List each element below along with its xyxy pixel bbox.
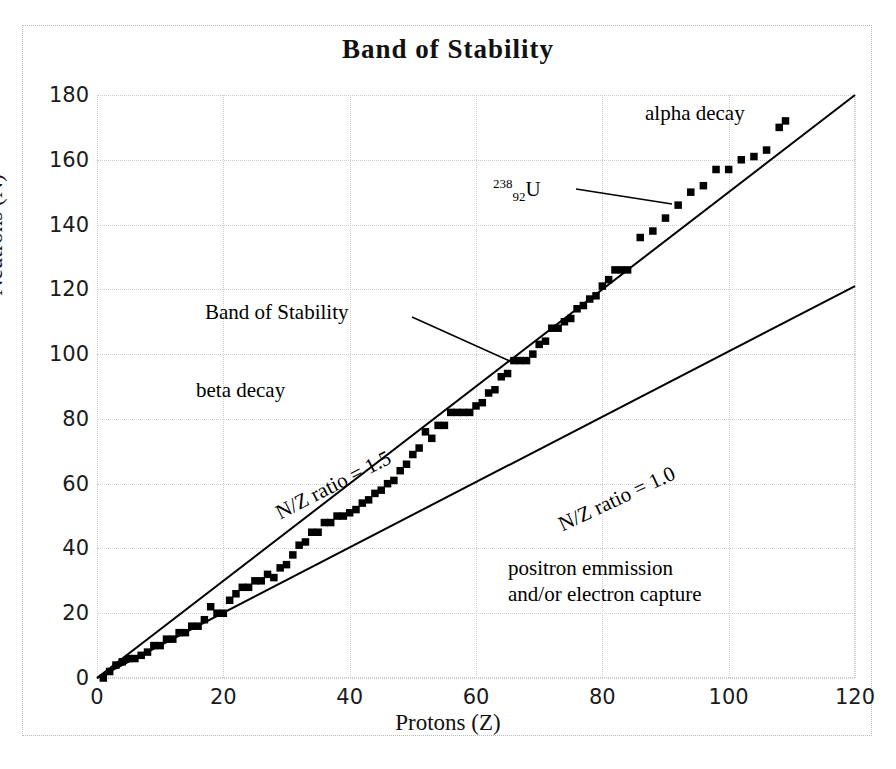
y-tick-label-180: 180	[29, 83, 89, 107]
y-axis-label: Neutrons (N)	[0, 125, 8, 345]
gridline-x-120	[855, 95, 856, 678]
annotation-u238: 23892U	[493, 176, 541, 205]
x-tick-label-0: 0	[90, 685, 103, 709]
gridline-x-60	[476, 95, 477, 678]
y-tick-label-140: 140	[29, 213, 89, 237]
gridline-x-40	[350, 95, 351, 678]
y-tick-label-120: 120	[29, 277, 89, 301]
annotation-beta-decay: beta decay	[196, 378, 285, 403]
chart-root: Band of Stability 1801601401201008060402…	[0, 0, 896, 769]
electron-capture-line2: and/or electron capture	[508, 581, 702, 607]
y-tick-label-40: 40	[29, 536, 89, 560]
gridline-x-100	[729, 95, 730, 678]
annotation-alpha-decay: alpha decay	[645, 101, 745, 126]
gridline-x-0	[97, 95, 98, 678]
page-title: Band of Stability	[0, 34, 896, 65]
x-tick-label-20: 20	[210, 685, 237, 709]
x-tick-label-40: 40	[336, 685, 363, 709]
gridline-y-0	[97, 678, 855, 679]
y-tick-label-0: 0	[29, 666, 89, 690]
y-tick-label-80: 80	[29, 407, 89, 431]
y-tick-label-20: 20	[29, 601, 89, 625]
positron-emission-line1: positron emmission	[508, 555, 702, 581]
y-tick-label-60: 60	[29, 472, 89, 496]
y-tick-label-100: 100	[29, 342, 89, 366]
u238-element-symbol: U	[526, 177, 541, 201]
y-axis-ticks: 180160140120100806040200	[25, 95, 89, 678]
x-tick-label-100: 100	[709, 685, 749, 709]
x-tick-label-120: 120	[835, 685, 875, 709]
u238-atomic-number: 92	[513, 189, 526, 204]
x-tick-label-80: 80	[589, 685, 616, 709]
x-axis-label: Protons (Z)	[0, 710, 896, 736]
y-tick-label-160: 160	[29, 148, 89, 172]
annotation-band-of-stability: Band of Stability	[205, 300, 349, 325]
x-tick-label-60: 60	[463, 685, 490, 709]
annotation-positron-emission: positron emmission and/or electron captu…	[508, 555, 702, 608]
u238-mass-number: 238	[493, 176, 513, 191]
